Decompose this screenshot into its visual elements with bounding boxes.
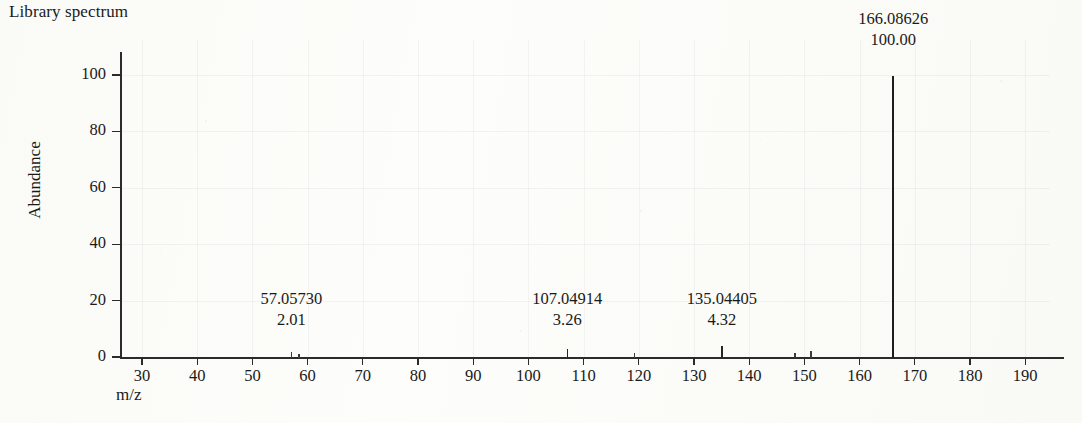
x-tick-mark — [749, 357, 750, 365]
x-tick-mark — [307, 357, 308, 365]
x-tick-label: 160 — [837, 366, 883, 386]
peak-annotation: 57.057302.01 — [231, 288, 351, 331]
spectrum-page: Library spectrum Abundance m/z 020406080… — [0, 0, 1082, 423]
x-tick-mark — [638, 357, 639, 365]
peak-abundance-label: 100.00 — [833, 29, 953, 50]
x-tick-mark — [859, 357, 860, 365]
peak-mz-label: 57.05730 — [231, 288, 351, 309]
x-tick-mark — [362, 357, 363, 365]
x-tick-label: 50 — [229, 366, 275, 386]
peak-annotation: 135.044054.32 — [662, 288, 782, 331]
peak-abundance-label: 4.32 — [662, 309, 782, 330]
x-tick-label: 30 — [119, 366, 165, 386]
x-tick-mark — [197, 357, 198, 365]
peak-abundance-label: 2.01 — [231, 309, 351, 330]
x-tick-label: 110 — [561, 366, 607, 386]
x-tick-label: 140 — [726, 366, 772, 386]
x-tick-label: 80 — [395, 366, 441, 386]
x-tick-label: 120 — [616, 366, 662, 386]
spectrum-peak — [794, 353, 796, 358]
x-tick-label: 170 — [892, 366, 938, 386]
x-tick-label: 60 — [285, 366, 331, 386]
peak-annotation: 107.049143.26 — [507, 288, 627, 331]
spectrum-peak — [291, 352, 293, 358]
x-tick-mark — [473, 357, 474, 365]
peak-mz-label: 107.04914 — [507, 288, 627, 309]
plot-area: 020406080100 304050607080901001101201301… — [0, 0, 1082, 423]
x-tick-label: 150 — [781, 366, 827, 386]
x-tick-mark — [417, 357, 418, 365]
x-tick-mark — [252, 357, 253, 365]
x-tick-mark — [1025, 357, 1026, 365]
x-tick-mark — [914, 357, 915, 365]
x-tick-mark — [693, 357, 694, 365]
x-tick-label: 130 — [671, 366, 717, 386]
spectrum-peak — [810, 351, 812, 358]
x-tick-label: 40 — [174, 366, 220, 386]
spectrum-peak — [567, 349, 569, 358]
x-tick-label: 90 — [450, 366, 496, 386]
x-tick-label: 180 — [947, 366, 993, 386]
peak-mz-label: 135.04405 — [662, 288, 782, 309]
spectrum-peak — [298, 354, 300, 359]
spectrum-peak — [892, 76, 894, 358]
peak-abundance-label: 3.26 — [507, 309, 627, 330]
x-tick-mark — [583, 357, 584, 365]
peak-annotation: 166.08626100.00 — [833, 8, 953, 51]
x-tick-mark — [969, 357, 970, 365]
x-tick-mark — [804, 357, 805, 365]
x-tick-label: 70 — [340, 366, 386, 386]
spectrum-peak — [634, 353, 636, 358]
x-tick-mark — [141, 357, 142, 365]
spectrum-peak — [721, 346, 723, 358]
x-tick-label: 100 — [505, 366, 551, 386]
x-tick-mark — [528, 357, 529, 365]
x-tick-label: 190 — [1002, 366, 1048, 386]
peak-mz-label: 166.08626 — [833, 8, 953, 29]
